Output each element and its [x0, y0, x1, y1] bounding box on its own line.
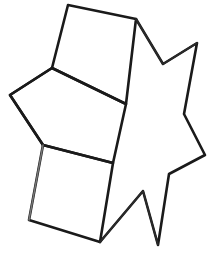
line-drawing: [0, 0, 211, 260]
drawing-canvas: [0, 0, 211, 260]
